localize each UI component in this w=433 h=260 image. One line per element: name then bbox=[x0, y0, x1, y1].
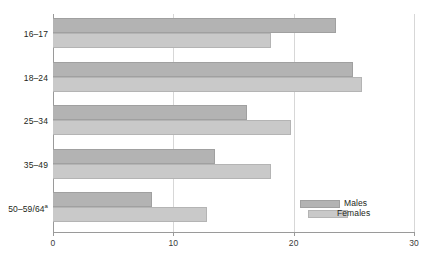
category-label: 35–49 bbox=[24, 160, 48, 170]
bar-females-2 bbox=[53, 120, 291, 135]
tick-mark bbox=[294, 232, 295, 236]
tick-mark bbox=[173, 232, 174, 236]
category-footnote-marker: a bbox=[45, 203, 48, 209]
x-tick-label: 20 bbox=[289, 238, 299, 248]
category-label: 18–24 bbox=[24, 73, 48, 83]
bar-females-0 bbox=[53, 33, 271, 48]
x-tick-label: 30 bbox=[409, 238, 419, 248]
bar-females-3 bbox=[53, 164, 271, 179]
bar-chart: 0102030 16–1718–2425–3435–4950–59/64a Ma… bbox=[0, 0, 433, 260]
tick-mark bbox=[414, 232, 415, 236]
bar-males-4 bbox=[53, 192, 152, 207]
category-label: 50–59/64a bbox=[8, 203, 48, 214]
category-label: 25–34 bbox=[24, 116, 48, 126]
bar-males-0 bbox=[53, 18, 336, 33]
category-label: 16–17 bbox=[24, 29, 48, 39]
tick-mark bbox=[53, 232, 54, 236]
bar-females-4 bbox=[53, 207, 207, 222]
bar-males-1 bbox=[53, 62, 353, 77]
x-axis-line bbox=[53, 232, 415, 233]
legend-label-males: Males bbox=[344, 198, 367, 208]
legend-label-females: Females bbox=[337, 208, 370, 218]
bar-males-3 bbox=[53, 149, 215, 164]
bar-females-1 bbox=[53, 77, 362, 92]
gridline bbox=[414, 14, 415, 232]
legend: Males Females bbox=[300, 199, 396, 223]
x-tick-label: 10 bbox=[169, 238, 179, 248]
legend-swatch-males-icon bbox=[300, 200, 340, 208]
x-tick-label: 0 bbox=[51, 238, 56, 248]
bar-males-2 bbox=[53, 105, 247, 120]
